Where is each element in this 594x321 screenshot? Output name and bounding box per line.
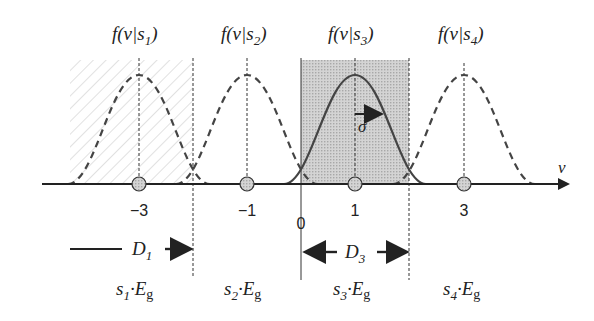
- sigma-label: σ: [358, 117, 367, 136]
- svg-text:s2·Eg: s2·Eg: [224, 278, 261, 303]
- constellation-point-s3: [348, 177, 362, 191]
- svg-text:D3: D3: [344, 241, 366, 266]
- svg-text:f(v|s1): f(v|s1): [112, 23, 157, 48]
- tick-label-zero: 0: [297, 215, 306, 232]
- v-axis-label: v: [558, 158, 566, 177]
- energy-label-s1: s1·Eg: [116, 278, 153, 303]
- svg-text:s1·Eg: s1·Eg: [116, 278, 153, 303]
- tick-label-1: 1: [351, 202, 360, 219]
- v-axis-arrowhead: [558, 178, 570, 190]
- d1-label: D1: [131, 238, 152, 263]
- svg-text:f(v|s2): f(v|s2): [221, 23, 266, 48]
- tick-label-3: 3: [460, 202, 469, 219]
- constellation-point-s2: [240, 177, 254, 191]
- svg-text:f(v|s3): f(v|s3): [328, 23, 373, 48]
- svg-text:s3·Eg: s3·Eg: [333, 278, 370, 303]
- constellation-point-s1: [132, 177, 146, 191]
- pdf-label-s2: f(v|s2): [221, 23, 266, 48]
- pdf-label-s1: f(v|s1): [112, 23, 157, 48]
- pam-decision-regions-diagram: σ v −3 −1 1 3 0 f(v|s1) f(v|s2) f(v|s3) …: [0, 0, 594, 321]
- energy-label-s4: s4·Eg: [443, 278, 480, 303]
- d3-label: D3: [344, 241, 366, 266]
- constellation-point-s4: [457, 177, 471, 191]
- tick-label-minus3: −3: [130, 202, 148, 219]
- svg-text:s4·Eg: s4·Eg: [443, 278, 480, 303]
- tick-label-minus1: −1: [238, 202, 256, 219]
- pdf-label-s3: f(v|s3): [328, 23, 373, 48]
- energy-label-s3: s3·Eg: [333, 278, 370, 303]
- svg-text:D1: D1: [131, 238, 152, 263]
- svg-text:f(v|s4): f(v|s4): [438, 23, 483, 48]
- pdf-label-s4: f(v|s4): [438, 23, 483, 48]
- energy-label-s2: s2·Eg: [224, 278, 261, 303]
